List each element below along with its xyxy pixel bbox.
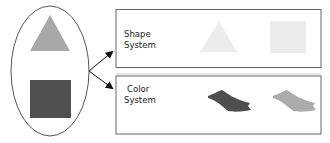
arrow-to-shape-system (89, 52, 112, 71)
color-system-label-line1: Color (124, 84, 156, 95)
color-system-label-line2: System (124, 95, 156, 106)
shape-system-label: Shape System (124, 29, 156, 51)
arrow-to-color-system (89, 71, 112, 88)
source-triangle (30, 15, 70, 51)
shape-system-label-line2: System (124, 40, 156, 51)
diagram-canvas (0, 0, 330, 143)
source-square (30, 80, 71, 118)
shape-system-label-line1: Shape (124, 29, 156, 40)
shape-system-square (270, 21, 306, 53)
color-system-label: Color System (124, 84, 156, 106)
